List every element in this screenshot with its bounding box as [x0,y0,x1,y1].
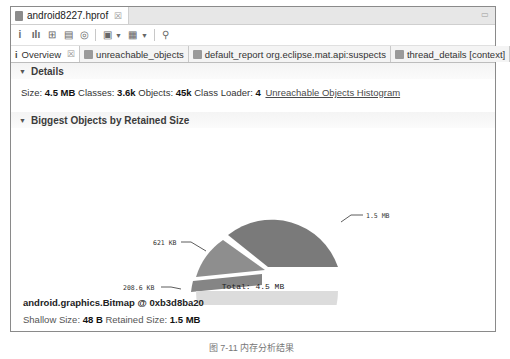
maximize-icon[interactable]: ▭ [481,10,489,19]
close-icon[interactable]: ☒ [114,11,122,21]
retained-size-pie-chart[interactable]: 1.5 MB 621 KB 208.6 KB 2.2 MB [11,127,495,305]
details-section-header[interactable]: ▼ Details [11,63,495,79]
heap-dump-file-icon [15,11,23,21]
tab-label: default_report org.eclipse.mat.api:suspe… [205,49,386,60]
table-icon [84,50,93,59]
tab-default-report[interactable]: default_report org.eclipse.mat.api:suspe… [189,46,391,62]
histogram-icon[interactable]: ıIı [31,30,41,40]
chevron-down-icon: ▼ [19,117,26,124]
info-icon: i [15,50,18,59]
biggest-objects-section-header[interactable]: ▼ Biggest Objects by Retained Size [11,112,495,128]
tab-label: thread_details [context] [407,49,505,60]
figure-caption: 图 7-11 内存分析结果 [0,341,503,354]
close-icon[interactable]: ☒ [67,49,75,59]
editor-tab-hprof[interactable]: android8227.hprof ☒ [11,7,129,24]
tab-thread-details[interactable]: thread_details [context] [391,46,510,62]
section-title: Details [31,66,64,77]
toolbar-separator [95,29,96,41]
dominator-tree-icon[interactable]: ⊞ [47,30,57,40]
report-tabs: i Overview ☒ unreachable_objects default… [11,46,495,63]
unreachable-histogram-link[interactable]: Unreachable Objects Histogram [265,87,400,98]
thread-icon [395,50,404,59]
editor-window: android8227.hprof ☒ ▭ i ıIı ⊞ ▤ ◎ ▣ ▼ ▦ … [10,6,496,332]
thread-overview-icon[interactable]: ◎ [79,30,89,40]
chart-total: Total: 4.5 MB [11,282,495,291]
pie-slice-4[interactable] [196,291,338,305]
editor-tab-label: android8227.hprof [27,10,108,21]
selected-object-name: android.graphics.Bitmap @ 0xb3d8ba20 [23,297,204,308]
tab-unreachable-objects[interactable]: unreachable_objects [80,46,189,62]
report-icon [193,50,202,59]
tab-label: Overview [22,49,62,60]
oql-icon[interactable]: ▤ [63,30,73,40]
toolbar-separator [154,29,155,41]
toolbar: i ıIı ⊞ ▤ ◎ ▣ ▼ ▦ ▼ ⚲ [11,25,495,46]
search-icon[interactable]: ⚲ [161,30,171,40]
run-report-icon[interactable]: ▣ [102,30,112,40]
query-browser-icon[interactable]: ▦ [128,30,138,40]
tab-label: unreachable_objects [96,49,184,60]
chevron-down-icon: ▼ [19,68,26,75]
tab-overview[interactable]: i Overview ☒ [11,46,80,62]
selected-object-sizes: Shallow Size: 48 B Retained Size: 1.5 MB [23,314,200,325]
details-summary: Size: 4.5 MB Classes: 3.6k Objects: 45k … [11,79,495,98]
chevron-down-icon[interactable]: ▼ [115,32,122,39]
svg-text:1.5 MB: 1.5 MB [366,212,390,220]
editor-tab-bar: android8227.hprof ☒ ▭ [11,7,495,25]
svg-text:621 KB: 621 KB [153,239,177,247]
info-icon[interactable]: i [15,30,25,40]
section-title: Biggest Objects by Retained Size [31,115,189,126]
chevron-down-icon[interactable]: ▼ [141,32,148,39]
